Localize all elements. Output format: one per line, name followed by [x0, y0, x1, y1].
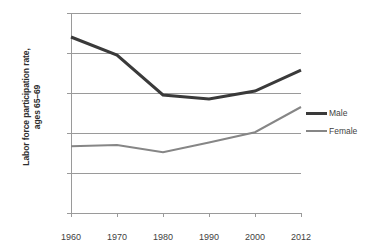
x-axis-tick-label: 2012	[281, 232, 321, 242]
x-axis-tick-label: 1990	[189, 232, 229, 242]
y-axis-title: Labor force participation rate, ages 65–…	[21, 12, 43, 202]
x-axis-tick	[117, 213, 118, 217]
series-layer	[71, 13, 301, 213]
series-line-female	[71, 107, 301, 152]
x-axis-tick	[301, 213, 302, 217]
legend-swatch-female-icon	[306, 130, 327, 132]
legend-swatch-male-icon	[306, 112, 327, 115]
x-axis-tick	[209, 213, 210, 217]
x-axis-tick-label: 1980	[143, 232, 183, 242]
x-axis-tick-label: 2000	[235, 232, 275, 242]
legend-label-female: Female	[329, 126, 357, 136]
x-axis-tick	[71, 213, 72, 217]
x-axis-line	[71, 213, 301, 214]
plot-area: 0%10%20%30%40%50% 1960197019801990200020…	[71, 13, 301, 213]
y-axis-title-line-1: Labor force participation rate,	[21, 12, 32, 202]
x-axis-tick-label: 1970	[97, 232, 137, 242]
x-axis-tick	[255, 213, 256, 217]
line-chart: Labor force participation rate, ages 65–…	[0, 0, 377, 247]
legend-item-female: Female	[306, 122, 357, 140]
y-axis-title-line-2: ages 65–69	[32, 12, 43, 202]
legend-item-male: Male	[306, 104, 357, 122]
series-line-male	[71, 37, 301, 99]
legend-label-male: Male	[329, 108, 347, 118]
chart-legend: Male Female	[306, 104, 357, 140]
x-axis-tick-label: 1960	[51, 232, 91, 242]
x-axis-tick	[163, 213, 164, 217]
